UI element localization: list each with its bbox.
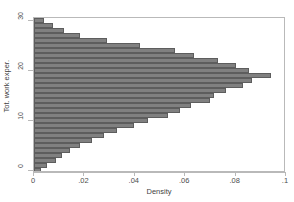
histogram-bar xyxy=(34,108,180,113)
histogram-bar xyxy=(34,43,140,48)
histogram-bar xyxy=(34,123,134,128)
x-tick-label: .1 xyxy=(282,177,288,185)
histogram-bar xyxy=(34,133,104,138)
x-tick-label: 0 xyxy=(31,177,35,185)
y-axis-title: Tot. work exper. xyxy=(1,0,13,172)
bars-layer xyxy=(34,18,284,171)
histogram-bar xyxy=(34,68,249,73)
histogram-bar xyxy=(34,78,252,83)
histogram-bar xyxy=(34,158,56,163)
plot-area xyxy=(33,17,285,172)
histogram-bar xyxy=(34,23,53,28)
histogram-bar xyxy=(34,98,210,103)
histogram-bar xyxy=(34,143,80,148)
histogram-bar xyxy=(34,148,70,153)
y-tick-label: 10 xyxy=(14,112,27,121)
histogram-bar xyxy=(34,38,107,43)
histogram-bar xyxy=(34,138,92,143)
histogram-bar xyxy=(34,118,148,123)
histogram-bar xyxy=(34,58,218,63)
y-tick-label: 0 xyxy=(14,162,27,169)
histogram-bar xyxy=(34,33,80,38)
histogram-bar xyxy=(34,63,236,68)
histogram-bar xyxy=(34,53,194,58)
histogram-bar xyxy=(34,113,168,118)
histogram-bar xyxy=(34,83,243,88)
histogram-bar xyxy=(34,28,64,33)
histogram-bar xyxy=(34,153,62,158)
histogram-bar xyxy=(34,48,175,53)
y-tick-label: 20 xyxy=(14,62,27,71)
histogram-figure: Tot. work exper. 0102030 0.02.04.06.08.1… xyxy=(0,0,294,202)
histogram-bar xyxy=(34,128,117,133)
x-tick-label: .08 xyxy=(229,177,239,185)
x-axis-line xyxy=(33,172,285,173)
x-tick-label: .02 xyxy=(78,177,88,185)
histogram-bar xyxy=(34,73,271,78)
x-tick-label: .04 xyxy=(129,177,139,185)
x-tick-label: .06 xyxy=(179,177,189,185)
histogram-bar xyxy=(34,18,44,23)
y-tick-label: 30 xyxy=(14,12,27,21)
x-axis-title: Density xyxy=(33,188,285,196)
histogram-bar xyxy=(34,88,226,93)
histogram-bar xyxy=(34,163,47,168)
y-axis-title-text: Tot. work exper. xyxy=(3,60,11,113)
histogram-bar xyxy=(34,93,214,98)
histogram-bar xyxy=(34,103,191,108)
